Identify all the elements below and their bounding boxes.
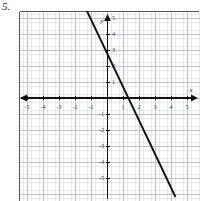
y-tick-label: -5 [99, 174, 104, 181]
y-tick-label: -3 [99, 142, 104, 149]
coordinate-plane: -5 -4 -3 -2 -1 1 2 3 4 5 5 4 3 2 1 -1 -2… [19, 11, 200, 201]
problem-number-label: 5. [2, 1, 10, 12]
x-tick-label: 3 [153, 103, 156, 110]
cartesian-plot-svg: -5 -4 -3 -2 -1 1 2 3 4 5 5 4 3 2 1 -1 -2… [19, 11, 200, 201]
x-tick-label: -5 [24, 103, 29, 110]
x-tick-label: 1 [121, 103, 124, 110]
y-tick-label: -2 [99, 126, 104, 133]
y-tick-label: 3 [112, 46, 115, 53]
y-tick-label: -1 [99, 110, 104, 117]
x-tick-label: -4 [40, 103, 45, 110]
x-tick-label: 4 [169, 103, 172, 110]
y-tick-label: 4 [112, 30, 115, 37]
y-tick-label: 2 [112, 62, 115, 69]
x-tick-label: 2 [137, 103, 140, 110]
y-tick-label: 1 [112, 78, 115, 85]
y-tick-label: 5 [112, 14, 115, 21]
y-tick-label: -4 [99, 158, 104, 165]
x-tick-label: -2 [72, 103, 77, 110]
x-tick-label: 5 [185, 103, 188, 110]
worksheet-graph-figure: 5. [0, 0, 200, 201]
x-tick-label: -1 [88, 103, 93, 110]
plot-background [19, 11, 200, 201]
x-tick-label: -3 [56, 103, 61, 110]
